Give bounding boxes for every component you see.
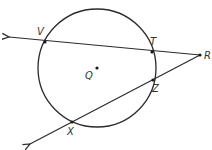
diagram-canvas: V T R Z X Q <box>0 0 212 150</box>
label-r: R <box>204 50 211 61</box>
circle-secants-diagram: V T R Z X Q <box>0 0 212 150</box>
point-x <box>70 120 73 123</box>
point-r <box>198 53 201 56</box>
label-t: T <box>150 36 157 47</box>
point-t <box>150 50 153 53</box>
point-q-center <box>95 66 98 69</box>
label-v: V <box>37 26 45 37</box>
secant-line-rzx <box>30 55 200 144</box>
secant-line-rtv <box>9 37 200 55</box>
point-v <box>43 40 46 43</box>
label-x: X <box>66 126 75 137</box>
label-z: Z <box>151 83 160 94</box>
point-z <box>151 78 154 81</box>
label-q: Q <box>85 70 93 81</box>
